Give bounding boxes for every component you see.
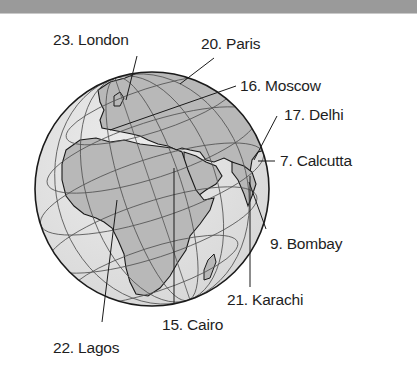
label-cairo: 15. Cairo — [162, 317, 223, 333]
label-bombay: 9. Bombay — [270, 236, 342, 252]
label-karachi: 21. Karachi — [227, 292, 303, 308]
label-lagos: 22. Lagos — [53, 340, 119, 356]
label-moscow: 16. Moscow — [240, 78, 321, 94]
label-london: 23. London — [53, 32, 129, 48]
label-calcutta: 7. Calcutta — [280, 153, 352, 169]
label-paris: 20. Paris — [201, 36, 260, 52]
label-delhi: 17. Delhi — [284, 107, 343, 123]
